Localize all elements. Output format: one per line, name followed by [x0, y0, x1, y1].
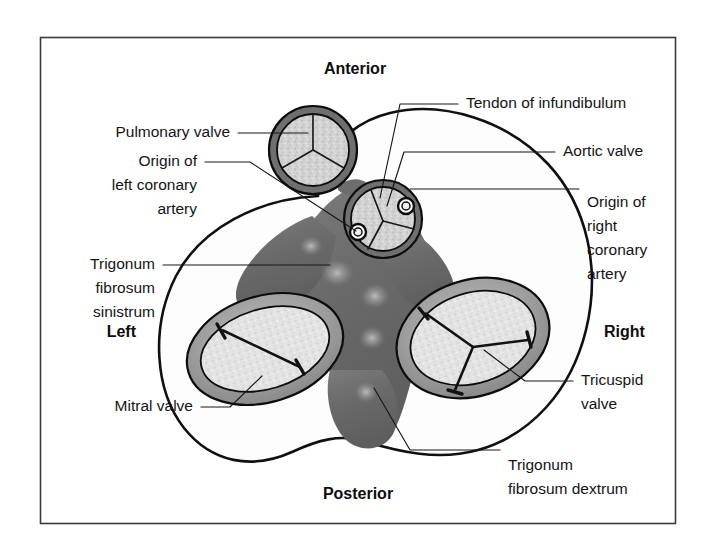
fibrous-body-highlight-5 [299, 236, 323, 256]
aortic-valve-shape [344, 180, 422, 258]
label-origin-left-coronary-artery-line2: left coronary [112, 176, 198, 193]
label-trigonum-fibrosum-sinistrum-line2: fibrosum [96, 279, 155, 296]
label-tendon-of-infundibulum: Tendon of infundibulum [466, 94, 626, 111]
cardiac-valve-plane-diagram: Anterior Posterior Left Right Pulmonary … [0, 0, 715, 534]
left-coronary-ostium [350, 224, 366, 240]
orientation-label-posterior: Posterior [323, 485, 393, 502]
label-trigonum-fibrosum-dextrum-line1: Trigonum [508, 456, 573, 473]
label-origin-right-coronary-artery-line4: artery [587, 265, 627, 282]
label-trigonum-fibrosum-sinistrum-line1: Trigonum [90, 255, 155, 272]
label-tricuspid-valve-line1: Tricuspid [581, 371, 643, 388]
orientation-label-anterior: Anterior [324, 60, 386, 77]
fibrous-body-highlight-1 [320, 259, 354, 287]
label-tricuspid-valve-line2: valve [581, 395, 617, 412]
right-coronary-ostium [398, 198, 414, 214]
label-origin-left-coronary-artery-line3: artery [157, 200, 197, 217]
pulmonary-valve-shape [269, 106, 357, 194]
label-trigonum-fibrosum-dextrum-line2: fibrosum dextrum [508, 480, 628, 497]
label-origin-right-coronary-artery-line1: Origin of [587, 193, 646, 210]
label-origin-left-coronary-artery-line1: Origin of [138, 152, 197, 169]
fibrous-body-highlight-4 [354, 381, 378, 403]
label-mitral-valve: Mitral valve [115, 397, 193, 414]
label-trigonum-fibrosum-sinistrum-line3: sinistrum [93, 303, 155, 320]
orientation-label-left: Left [107, 323, 137, 340]
label-origin-right-coronary-artery-line3: coronary [587, 241, 648, 258]
fibrous-body-highlight-2 [360, 283, 390, 309]
fibrous-body-highlight-3 [358, 326, 386, 350]
orientation-label-right: Right [604, 323, 646, 340]
label-origin-right-coronary-artery-line2: right [587, 217, 618, 234]
diagram-root: Anterior Posterior Left Right Pulmonary … [0, 0, 715, 534]
label-aortic-valve: Aortic valve [563, 142, 643, 159]
label-pulmonary-valve: Pulmonary valve [115, 123, 230, 140]
